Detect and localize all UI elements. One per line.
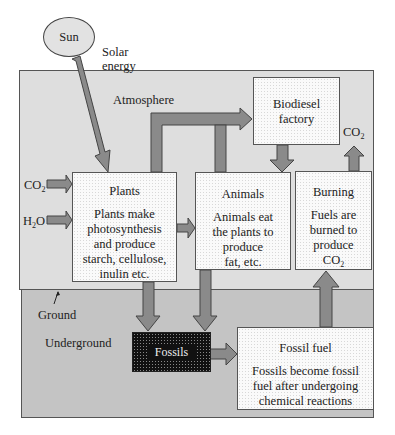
biodiesel-factory-node: Biodiesel factory: [253, 77, 340, 145]
animals-to-fossils-arrow: [193, 270, 217, 331]
fossil-fuel-node: Fossil fuel Fossils become fossil fuel a…: [237, 327, 374, 410]
plants-to-biodiesel-arrow: [151, 108, 252, 172]
burning-title: Burning: [296, 185, 371, 200]
atmosphere-label: Atmosphere: [113, 93, 174, 107]
burning-line: produce: [296, 238, 371, 253]
animals-line: produce: [196, 240, 290, 255]
biodiesel-line2: factory: [254, 112, 339, 127]
burning-line: Fuels are: [296, 208, 371, 223]
animals-title: Animals: [196, 187, 290, 202]
animals-node: Animals Animals eat the plants to produc…: [195, 172, 291, 270]
plants-to-fossils-arrow: [136, 282, 160, 331]
burning-co2-base: CO: [323, 253, 340, 267]
plants-line: starch, cellulose,: [73, 252, 176, 267]
co2-input-label: CO2: [24, 178, 45, 192]
co2-output-label: CO2: [343, 125, 364, 139]
plants-line: photosynthesis: [73, 222, 176, 237]
plants-title: Plants: [73, 184, 176, 199]
h2o-input-label: H2O: [23, 214, 45, 228]
fossils-node: Fossils: [132, 332, 211, 372]
sun-label: Sun: [59, 30, 78, 45]
solar-energy-arrow: [72, 56, 110, 172]
animals-line: fat, etc.: [196, 255, 290, 270]
fossil-fuel-line: Fossils become fossil: [238, 364, 373, 379]
plants-line: inulin etc.: [73, 267, 176, 282]
co2-base: CO: [24, 178, 41, 192]
fossils-label: Fossils: [147, 344, 196, 361]
solar-energy-line2: energy: [102, 59, 136, 73]
burning-to-co2-arrow: [344, 146, 364, 171]
biodiesel-line1: Biodiesel: [254, 97, 339, 112]
fossil-fuel-line: chemical reactions: [238, 394, 373, 409]
underground-label: Underground: [45, 336, 111, 350]
ground-pointer-head: [56, 291, 60, 296]
solar-energy-label: Solar energy: [102, 45, 136, 73]
sun-node: Sun: [43, 17, 95, 57]
animals-line: the plants to: [196, 225, 290, 240]
animals-to-biodiesel-connector: [215, 125, 226, 172]
fossils-to-fossilfuel-arrow: [210, 343, 237, 365]
biodiesel-to-burning-arrow: [270, 145, 294, 172]
burning-node: Burning Fuels are burned to produce CO2: [295, 171, 372, 270]
h2o-post: O: [36, 214, 45, 228]
fossil-fuel-line: fuel after undergoing: [238, 379, 373, 394]
plants-to-animals-arrow: [177, 218, 195, 238]
burning-line: burned to: [296, 223, 371, 238]
co2-out-sub: 2: [360, 132, 364, 141]
ground-label: Ground: [38, 308, 76, 322]
co2-input-arrow: [47, 175, 72, 193]
fossil-fuel-title: Fossil fuel: [238, 341, 373, 356]
plants-line: Plants make: [73, 207, 176, 222]
burning-line-co2: CO2: [296, 253, 371, 268]
solar-energy-line1: Solar: [102, 45, 136, 59]
plants-node: Plants Plants make photosynthesis and pr…: [72, 172, 177, 282]
co2-out-base: CO: [343, 125, 360, 139]
burning-co2-sub: 2: [340, 260, 344, 269]
animals-line: Animals eat: [196, 210, 290, 225]
h2o-pre: H: [23, 214, 32, 228]
co2-sub: 2: [41, 185, 45, 194]
h2o-input-arrow: [47, 211, 72, 229]
fossilfuel-to-burning-arrow: [313, 271, 339, 327]
plants-line: and produce: [73, 237, 176, 252]
